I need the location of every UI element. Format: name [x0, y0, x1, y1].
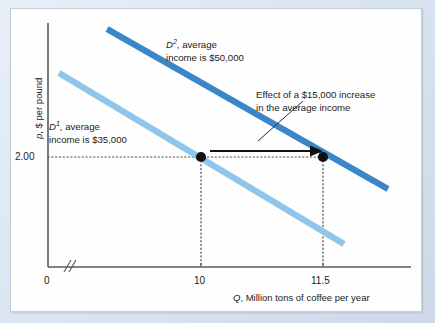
y-axis-title-symbol: p [33, 134, 44, 139]
x-axis-title: Q, Million tons of coffee per year [233, 292, 370, 304]
y-axis-title: p, $ per pound [33, 78, 45, 139]
series-label-d2-line2: income is $50,000 [166, 52, 244, 63]
shift-arrow-icon [210, 146, 323, 157]
y-axis-title-rest: , $ per pound [33, 78, 44, 134]
shift-annotation-line1: Effect of a $15,000 increase [256, 89, 375, 100]
shift-annotation: Effect of a $15,000 increasein the avera… [256, 89, 375, 114]
x-axis-title-rest: , Million tons of coffee per year [240, 292, 369, 303]
origin-label: 0 [44, 275, 50, 286]
x-tick-label-10: 10 [194, 275, 205, 286]
equilibrium-point-d2 [318, 152, 328, 162]
plot-area: p, $ per pound 2.00 0 10 11.5 Q, Million… [11, 9, 421, 311]
series-label-d2-rest: , average [177, 39, 217, 50]
series-label-d1-rest: , average [60, 121, 100, 132]
series-label-d1-symbol: D [49, 121, 56, 132]
chart-panel: p, $ per pound 2.00 0 10 11.5 Q, Million… [10, 8, 422, 312]
figure-root: p, $ per pound 2.00 0 10 11.5 Q, Million… [0, 0, 435, 323]
shift-annotation-line2: in the average income [256, 102, 350, 113]
y-tick-label-2-00: 2.00 [15, 151, 34, 162]
x-tick-label-11-5: 11.5 [311, 275, 330, 286]
series-label-d1-line2: income is $35,000 [49, 134, 127, 145]
series-label-d1: D1, averageincome is $35,000 [49, 121, 127, 146]
series-label-d2: D2, averageincome is $50,000 [166, 39, 244, 64]
axis-break-icon [64, 260, 76, 272]
equilibrium-point-d1 [196, 152, 206, 162]
series-label-d2-symbol: D [166, 39, 173, 50]
